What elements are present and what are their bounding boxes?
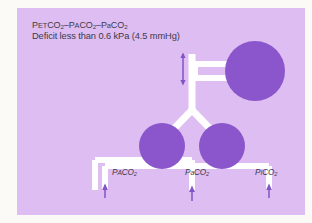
label-a-mid: CO	[122, 168, 134, 177]
caption-l1-sub3: 2	[124, 23, 127, 30]
alveolus-left	[139, 123, 185, 169]
caption-l1-sc1: ET	[38, 21, 47, 30]
caption-l1-mid1: CO	[47, 20, 60, 30]
label-paco2-alveolar: PACO2	[112, 168, 137, 177]
label-b-sub: 2	[206, 171, 209, 177]
gradient-double-arrow	[180, 53, 185, 86]
sampling-connector-group	[195, 64, 229, 78]
alveolus-right	[199, 123, 245, 169]
caption-l1-mid2: CO	[79, 20, 92, 30]
label-b-mid: CO	[194, 168, 206, 177]
diagram-panel: .tube { fill:none; stroke:#ffffff; strok…	[17, 8, 305, 215]
caption-line-2: Deficit less than 0.6 kPa (4.5 mmHg)	[32, 31, 282, 42]
caption-l1-mid3: CO	[111, 20, 124, 30]
figure-canvas: .tube { fill:none; stroke:#ffffff; strok…	[0, 0, 312, 223]
caption-line-1: PETCO2–PACO2–PaCO2	[32, 20, 282, 31]
label-pico2-inspired: PICO2	[255, 168, 277, 177]
label-a-sub: 2	[134, 171, 137, 177]
label-c-sub: 2	[274, 171, 277, 177]
label-paco2-arterial: PaCO2	[185, 168, 209, 177]
caption-l1-dash1: –P	[64, 20, 75, 30]
sampling-balloon	[225, 41, 285, 101]
measurement-arrows-group	[102, 184, 272, 202]
caption-l1-dash2: –P	[96, 20, 107, 30]
label-c-mid: CO	[262, 168, 274, 177]
caption-block: PETCO2–PACO2–PaCO2 Deficit less than 0.6…	[32, 20, 282, 42]
